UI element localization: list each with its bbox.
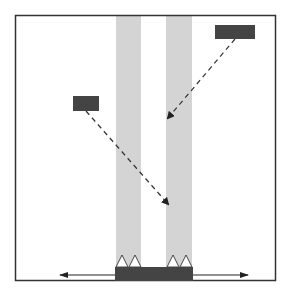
beam-left [116,16,141,267]
base-block [115,267,193,281]
frame [16,16,276,281]
beam-right [166,16,192,267]
source-right [215,25,255,39]
diagram-canvas [0,0,287,295]
source-left [73,96,99,111]
